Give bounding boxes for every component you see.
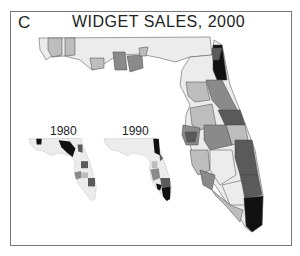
maps-canvas <box>0 0 300 256</box>
map-1990 <box>104 138 171 201</box>
map-2000 <box>39 37 263 232</box>
map-1980 <box>29 138 96 201</box>
